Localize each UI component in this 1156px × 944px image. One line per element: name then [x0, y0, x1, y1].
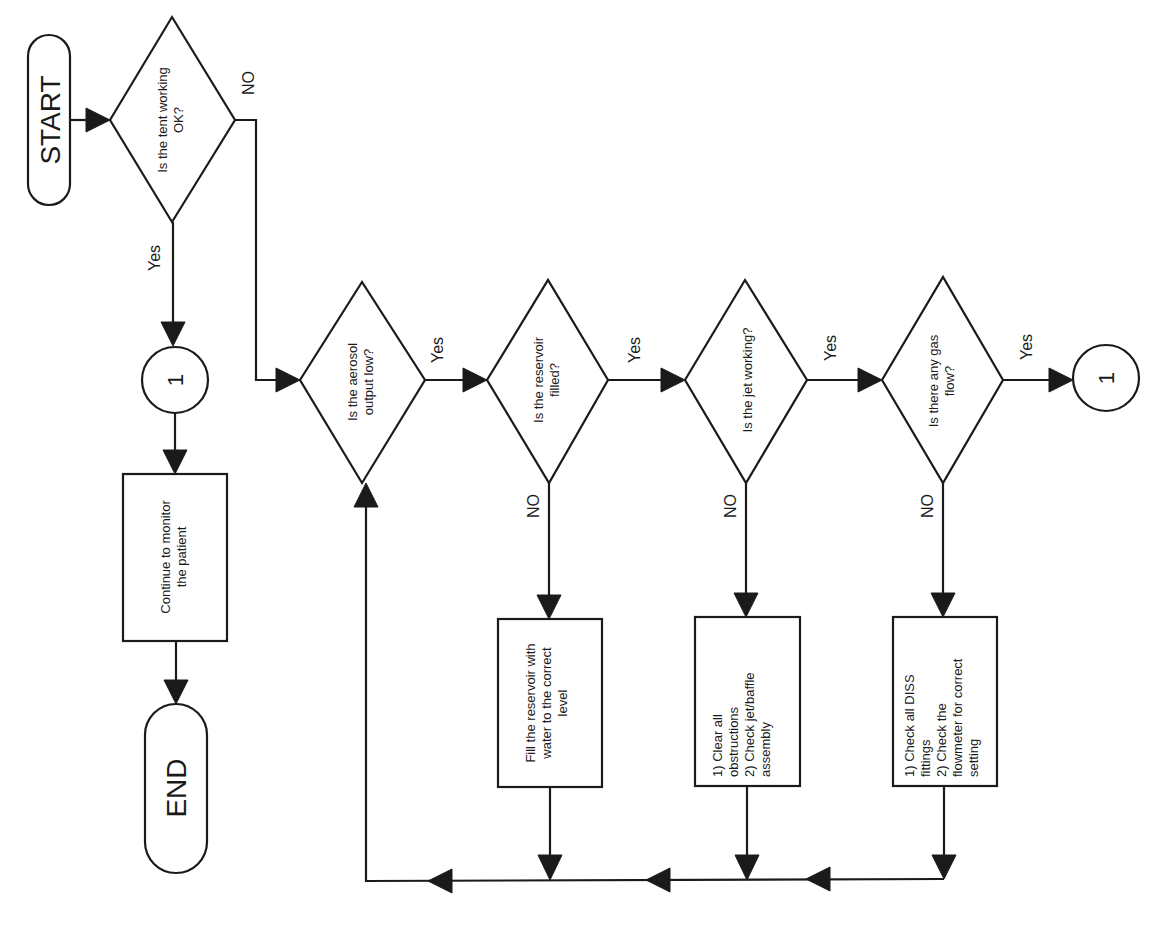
arrow-head-icon — [354, 483, 378, 507]
connector-1-right: 1 — [1073, 345, 1139, 411]
arrow-head-icon — [735, 855, 759, 880]
process-fill-reservoir: Fill the reservoir with water to the cor… — [498, 619, 602, 787]
decision-gas-flow: Is there any gas flow? — [882, 277, 1003, 483]
connector-label: 1 — [163, 374, 188, 386]
arrow-head-icon — [164, 680, 188, 704]
end-terminal: END — [145, 704, 207, 873]
arrow-head-icon — [276, 368, 300, 392]
process-text-line3: 2) Check jet/baffle — [742, 672, 757, 777]
arrow-head-icon — [734, 593, 758, 617]
decision-reservoir-filled: Is the reservoir filled? — [487, 280, 608, 483]
decision-text-line2: output low? — [361, 349, 376, 416]
decision-jet-working: Is the jet working? — [685, 280, 807, 483]
edge-label-no: NO — [722, 494, 739, 518]
edge-label-no: NO — [240, 71, 257, 95]
edge-label-yes: Yes — [429, 337, 446, 363]
edge-label-no: NO — [525, 494, 542, 518]
process-check-diss: 1) Check all DISS fittings 2) Check the … — [893, 617, 997, 786]
arrow-head-icon — [646, 868, 670, 892]
decision-text-line1: Is the jet working? — [740, 328, 755, 433]
arrow-head-icon — [163, 450, 187, 474]
start-label: START — [35, 75, 66, 164]
process-text-line2: water to the correct — [539, 647, 554, 760]
decision-text-line2: flow? — [942, 366, 957, 396]
decision-text-line2: filled? — [547, 363, 562, 397]
process-text-line5: setting — [966, 739, 981, 777]
process-clear-obstructions: 1) Clear all obstructions 2) Check jet/b… — [695, 617, 800, 786]
edge-label-yes: Yes — [626, 337, 643, 363]
edge-loop-back — [366, 498, 944, 881]
process-text-line2: obstructions — [726, 706, 741, 777]
arrow-head-icon — [463, 368, 487, 392]
arrow-head-icon — [161, 322, 185, 346]
process-text-line4: flowmeter for correct — [950, 658, 965, 777]
arrow-head-icon — [932, 855, 956, 879]
process-text-line3: 2) Check the — [934, 703, 949, 777]
process-text-line1: 1) Clear all — [710, 714, 725, 777]
connector-1-left: 1 — [142, 347, 208, 413]
decision-text-line2: OK? — [171, 107, 186, 133]
arrow-head-icon — [86, 108, 110, 132]
edge-label-yes: Yes — [1018, 334, 1035, 360]
arrow-head-icon — [858, 368, 882, 392]
decision-tent-working: Is the tent working OK? — [110, 17, 235, 222]
process-text-line4: assembly — [758, 722, 773, 777]
connector-label: 1 — [1094, 372, 1119, 384]
arrow-head-icon — [538, 855, 562, 880]
start-terminal: START — [28, 35, 70, 205]
process-text-line1: 1) Check all DISS — [902, 674, 917, 777]
arrow-head-icon — [661, 368, 685, 392]
flowchart-svg: START Is the tent working OK? 1 Continue… — [0, 0, 1156, 944]
end-label: END — [161, 758, 192, 817]
process-text-line1: Fill the reservoir with — [523, 643, 538, 762]
arrow-head-icon — [931, 593, 955, 617]
decision-text-line1: Is the aerosol — [345, 343, 360, 421]
process-text-line1: Continue to monitor — [158, 500, 173, 614]
arrow-head-icon — [1049, 368, 1073, 392]
decision-text-line1: Is the reservoir — [531, 336, 546, 423]
edge-label-yes: Yes — [822, 335, 839, 361]
edge-label-yes: Yes — [146, 245, 163, 271]
process-text-line3: level — [555, 690, 570, 717]
arrow-head-icon — [537, 595, 561, 619]
decision-aerosol-low: Is the aerosol output low? — [300, 282, 425, 483]
decision-text-line1: Is there any gas — [926, 334, 941, 427]
flowchart-canvas: START Is the tent working OK? 1 Continue… — [0, 0, 1156, 944]
process-text-line2: the patient — [174, 526, 189, 587]
process-continue-monitor: Continue to monitor the patient — [123, 474, 227, 641]
process-text-line2: fittings — [918, 739, 933, 777]
arrow-head-icon — [806, 867, 830, 891]
edge-label-no: NO — [919, 494, 936, 518]
edge-d1-no — [235, 120, 285, 380]
arrow-head-icon — [428, 869, 452, 893]
decision-text-line1: Is the tent working — [155, 67, 170, 173]
